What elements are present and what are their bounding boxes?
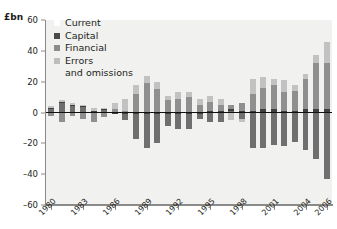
chart-root: £bn 6040200–20–40–60 1980198319861989199… — [0, 0, 337, 229]
bar-segment — [165, 96, 171, 101]
legend-item-financial: Financial — [54, 42, 133, 55]
bar-segment — [144, 83, 150, 112]
y-tick-mark — [41, 143, 45, 144]
legend: Current Capital Financial Errors and omi… — [54, 17, 133, 80]
bar-segment — [260, 113, 266, 148]
y-tick-mark — [41, 81, 45, 82]
y-tick-mark — [41, 50, 45, 51]
legend-item-current: Current — [54, 17, 133, 30]
bar-segment — [292, 113, 298, 142]
bar-segment — [122, 113, 128, 121]
y-tick-mark — [41, 174, 45, 175]
bar-segment — [59, 113, 65, 122]
bar-segment — [218, 113, 224, 122]
bar-segment — [207, 113, 213, 122]
y-tick-label: 40 — [0, 46, 45, 56]
bar-segment — [154, 89, 160, 112]
bar-segment — [281, 80, 287, 92]
bar-segment — [271, 113, 277, 145]
bar-segment — [91, 113, 97, 122]
bar-segment — [228, 105, 234, 110]
legend-item-capital: Capital — [54, 30, 133, 43]
bar-segment — [91, 108, 97, 111]
y-tick-mark — [41, 20, 45, 21]
bar-segment — [250, 94, 256, 111]
bar-segment — [324, 113, 330, 179]
bar-segment — [260, 77, 266, 88]
bar-segment — [313, 55, 319, 63]
y-tick-label: 20 — [0, 77, 45, 87]
legend-swatch-current — [54, 20, 60, 26]
bar-segment — [197, 99, 203, 105]
bar-segment — [165, 100, 171, 112]
bar-segment — [281, 92, 287, 111]
bar-segment — [48, 108, 54, 109]
bar-segment — [101, 108, 107, 110]
y-tick-label: 0 — [0, 108, 45, 118]
bar-segment — [303, 79, 309, 110]
bar-segment — [80, 113, 86, 119]
bar-segment — [165, 113, 171, 127]
bar-segment — [281, 113, 287, 147]
legend-label-errors: Errors — [65, 55, 93, 68]
bar-segment — [70, 103, 76, 105]
legend-label-errors-continuation: and omissions — [65, 67, 133, 80]
y-tick-mark — [41, 112, 45, 113]
bar-segment — [228, 113, 234, 121]
bar-segment — [292, 85, 298, 91]
bar-segment — [175, 92, 181, 98]
bar-segment — [197, 113, 203, 119]
bar-segment — [133, 113, 139, 139]
bar-segment — [175, 113, 181, 130]
bar-segment — [250, 79, 256, 94]
bar-segment — [324, 63, 330, 109]
bar-segment — [207, 102, 213, 111]
legend-item-errors: Errors — [54, 55, 133, 68]
bar-segment — [271, 85, 277, 110]
bar-segment — [218, 99, 224, 105]
y-tick-label: –40 — [0, 169, 45, 179]
bar-segment — [154, 82, 160, 90]
bar-segment — [303, 74, 309, 79]
bar-segment — [112, 103, 118, 109]
bar-segment — [324, 42, 330, 64]
bar-segment — [313, 63, 319, 109]
bar-segment — [122, 99, 128, 111]
bar-segment — [207, 96, 213, 102]
bar-segment — [239, 103, 245, 111]
bar-segment — [144, 113, 150, 148]
bar-segment — [133, 85, 139, 94]
zero-line — [46, 112, 332, 114]
bar-segment — [144, 76, 150, 84]
bar-segment — [313, 113, 319, 159]
bar-segment — [48, 106, 54, 108]
bar-segment — [175, 99, 181, 113]
bar-segment — [218, 105, 224, 111]
legend-swatch-errors — [54, 58, 60, 64]
legend-swatch-capital — [54, 33, 60, 39]
bar-segment — [80, 106, 86, 107]
bar-segment — [70, 105, 76, 106]
bar-segment — [80, 105, 86, 107]
bar-segment — [154, 113, 160, 144]
bar-segment — [250, 113, 256, 148]
bar-segment — [59, 102, 65, 103]
bar-segment — [101, 109, 107, 110]
bar-segment — [186, 113, 192, 130]
y-tick-label: –20 — [0, 138, 45, 148]
bar-segment — [59, 100, 65, 102]
bar-segment — [292, 91, 298, 111]
y-tick-label: 60 — [0, 15, 45, 25]
bar-segment — [271, 79, 277, 85]
bar-segment — [303, 113, 309, 150]
legend-label-financial: Financial — [65, 42, 107, 55]
legend-label-current: Current — [65, 17, 101, 30]
bar-segment — [186, 92, 192, 97]
bar-segment — [260, 88, 266, 110]
legend-label-capital: Capital — [65, 30, 98, 43]
bar-segment — [239, 119, 245, 122]
bar-segment — [186, 97, 192, 112]
bar-segment — [133, 94, 139, 113]
legend-swatch-financial — [54, 45, 60, 51]
